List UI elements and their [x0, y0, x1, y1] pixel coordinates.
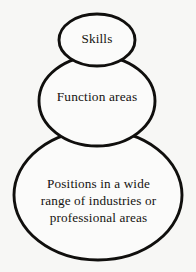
ellipse-function-areas: [39, 56, 155, 146]
diagram-container: Skills Function areas Positions in a wid…: [0, 0, 196, 272]
ellipse-positions: [14, 130, 182, 260]
ellipse-skills: [59, 14, 135, 66]
ellipse-diagram: [0, 0, 196, 272]
